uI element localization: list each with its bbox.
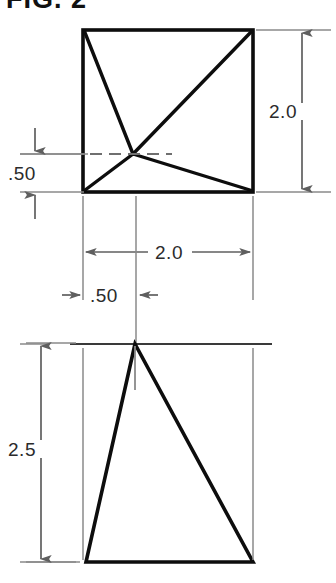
drawing-canvas: FIG. 2 2.0 — [0, 0, 336, 583]
square-edge-apex-to-bottomright — [133, 154, 252, 191]
square-edge-topleft-to-apex — [85, 32, 134, 155]
top-view-group — [20, 30, 253, 192]
pyramid-height-dimension: 2.5 — [8, 343, 76, 562]
square-edge-bottomleft-to-apex — [85, 154, 134, 191]
figure-title: FIG. 2 — [6, 0, 87, 14]
apex-horizontal-offset-dimension: .50 — [62, 196, 158, 343]
apex-vertical-offset-dimension: .50 — [8, 128, 84, 219]
square-height-value: 2.0 — [269, 101, 297, 122]
triangle-outline — [86, 344, 253, 562]
square-width-value: 2.0 — [155, 242, 183, 263]
apex-horizontal-offset-value: .50 — [90, 285, 118, 306]
front-view-group — [20, 344, 272, 562]
engineering-drawing-svg: FIG. 2 2.0 — [0, 0, 336, 583]
square-height-dimension: 2.0 — [256, 30, 331, 192]
pyramid-height-value: 2.5 — [8, 439, 36, 460]
apex-vertical-offset-value: .50 — [8, 163, 36, 184]
square-edge-apex-to-topright — [133, 32, 252, 155]
